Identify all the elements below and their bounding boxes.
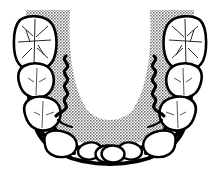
tooth-left-first-premolar <box>24 97 60 131</box>
dental-arch-figure: Dental Arch Diagram occlusal 12 <box>0 0 220 177</box>
tooth-right-first-premolar <box>159 97 195 131</box>
tooth-left-second-premolar <box>18 63 53 97</box>
tooth-right-central-incisor <box>101 145 125 163</box>
tooth-right-second-premolar <box>166 63 201 97</box>
tooth-left-canine <box>44 131 76 158</box>
dental-arch-illustration <box>0 0 220 177</box>
tooth-right-canine <box>143 131 175 158</box>
